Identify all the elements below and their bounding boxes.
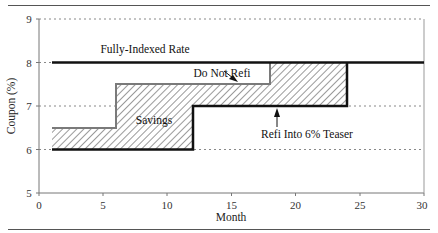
x-tick-0: 0 (36, 199, 42, 211)
x-tick-25: 25 (355, 199, 367, 211)
refi-teaser-label: Refi Into 6% Teaser (261, 128, 353, 140)
x-axis-title: Month (216, 211, 247, 223)
y-tick-7: 7 (26, 100, 32, 112)
do-not-refi-label: Do Not Refi (194, 67, 251, 79)
x-tick-5: 5 (100, 199, 106, 211)
axes (36, 19, 424, 196)
coupon-chart: 9 8 7 6 5 0 5 10 15 20 25 30 Month Coupo… (0, 0, 438, 233)
y-tick-8: 8 (26, 57, 32, 69)
x-tick-30: 30 (417, 199, 429, 211)
savings-label: Savings (136, 114, 173, 127)
y-tick-6: 6 (26, 144, 32, 156)
x-tick-10: 10 (162, 199, 174, 211)
refi-teaser-arrow-icon (274, 108, 280, 127)
x-tick-labels: 0 5 10 15 20 25 30 (36, 199, 428, 211)
y-tick-5: 5 (26, 187, 32, 199)
y-tick-9: 9 (26, 13, 32, 25)
y-axis-title: Coupon (%) (5, 78, 18, 135)
x-tick-15: 15 (226, 199, 238, 211)
fully-indexed-label: Fully-Indexed Rate (100, 43, 189, 56)
x-tick-20: 20 (290, 199, 302, 211)
y-tick-labels: 9 8 7 6 5 (26, 13, 32, 199)
